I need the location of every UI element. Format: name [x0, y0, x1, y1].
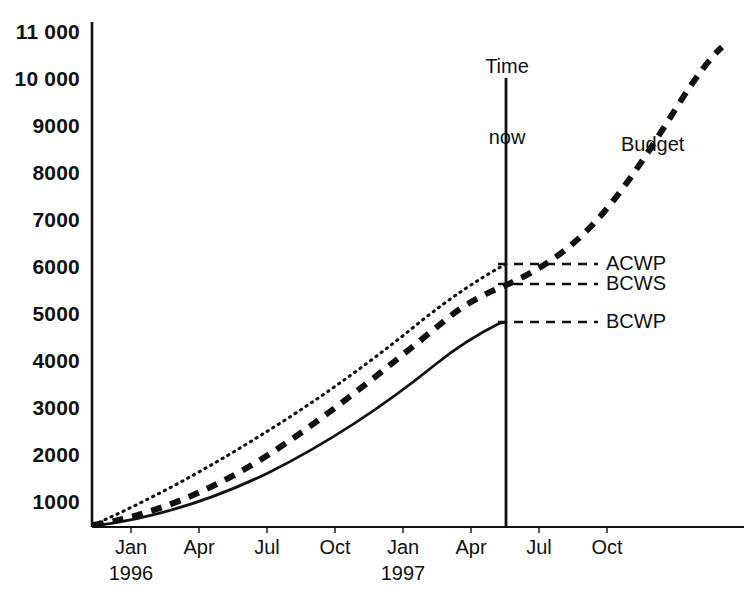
legend-label-bcws: BCWS [606, 273, 666, 294]
budget-label: Budget [621, 134, 684, 155]
y-tick-11000: 11 000 [14, 21, 80, 43]
y-tick-6000: 6000 [14, 256, 80, 278]
time-now-label-line2: now [452, 126, 562, 150]
y-tick-9000: 9000 [14, 115, 80, 137]
chart-canvas [0, 0, 754, 609]
time-now-label: Time now [452, 8, 562, 197]
time-now-label-line1: Time [452, 55, 562, 79]
x-tick-oct-1997: Oct [567, 537, 647, 558]
y-tick-2000: 2000 [14, 444, 80, 466]
y-tick-4000: 4000 [14, 350, 80, 372]
y-tick-1000: 1000 [14, 491, 80, 513]
legend-label-acwp: ACWP [606, 253, 666, 274]
x-tick-year-1996: 1996 [91, 563, 171, 584]
x-tick-year-1997: 1997 [363, 563, 443, 584]
y-tick-10000: 10 000 [14, 68, 80, 90]
earned-value-chart: 11 000 10 000 9000 8000 7000 6000 5000 4… [0, 0, 754, 609]
y-tick-7000: 7000 [14, 209, 80, 231]
legend-label-bcwp: BCWP [606, 311, 666, 332]
y-tick-3000: 3000 [14, 397, 80, 419]
y-tick-8000: 8000 [14, 162, 80, 184]
y-tick-5000: 5000 [14, 303, 80, 325]
acwp-curve [93, 264, 506, 525]
